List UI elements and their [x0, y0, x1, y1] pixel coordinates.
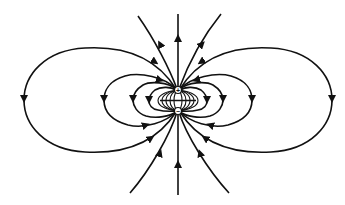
dipole-field-diagram: + − [0, 0, 345, 205]
outer-loop-left [24, 48, 176, 153]
negative-charge: − [175, 108, 182, 115]
positive-charge: + [175, 87, 182, 94]
negative-charge-label: − [176, 108, 180, 115]
outer-loop-right [180, 48, 332, 153]
positive-charge-label: + [176, 87, 180, 94]
vertical-field-lines [130, 14, 229, 195]
